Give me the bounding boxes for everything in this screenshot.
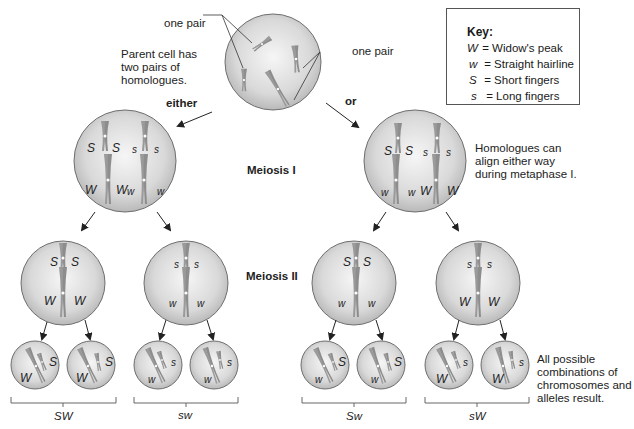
allele-label: w: [127, 186, 134, 198]
allele-label: W: [85, 184, 96, 196]
key-legend: Key: W = Widow's peak w = Straight hairl…: [446, 8, 580, 105]
allele-label: w: [408, 187, 415, 199]
meiosis2-label: Meiosis II: [246, 270, 298, 283]
allele-label: S: [105, 356, 113, 368]
arrow-either: [178, 112, 212, 126]
all-combinations-note: All possible combinations of chromosomes…: [537, 353, 632, 405]
meiosis2-cell-3: [312, 241, 396, 325]
allele-label: s: [194, 259, 199, 271]
parent-description: Parent cell has two pairs of homologues.: [121, 48, 197, 87]
allele-label: s: [423, 147, 428, 159]
allele-label: S: [363, 256, 371, 268]
allele-label: w: [169, 298, 176, 310]
allele-label: S: [384, 145, 392, 157]
allele-label: w: [371, 374, 378, 386]
allele-label: W: [459, 296, 470, 308]
allele-label: s: [171, 357, 176, 369]
pair-label-left: one pair: [164, 17, 206, 30]
gamete-brackets: [11, 397, 529, 407]
allele-label: w: [148, 374, 155, 386]
gamete-group-label: SW: [54, 410, 73, 422]
key-row-W: W = Widow's peak: [467, 42, 563, 54]
gamete-group-label: sw: [178, 409, 192, 421]
allele-label: W: [447, 185, 458, 197]
allele-label: w: [381, 187, 388, 199]
meiosis2-cell-4: [436, 241, 520, 325]
allele-label: s: [487, 259, 492, 271]
allele-label: w: [197, 298, 204, 310]
allele-label: S: [343, 256, 351, 268]
allele-label: S: [338, 356, 346, 368]
allele-label: s: [174, 259, 179, 271]
allele-label: W: [420, 185, 431, 197]
allele-label: S: [49, 356, 57, 368]
allele-label: S: [87, 142, 95, 154]
allele-label: W: [76, 372, 87, 384]
allele-label: s: [132, 144, 137, 156]
allele-label: s: [446, 147, 451, 159]
meiosis1-label: Meiosis I: [247, 164, 296, 177]
allele-label: s: [154, 144, 159, 156]
allele-label: W: [20, 372, 31, 384]
allele-label: W: [74, 295, 85, 307]
allele-label: w: [204, 374, 211, 386]
key-row-S: S = Short fingers: [469, 74, 559, 86]
allele-label: W: [116, 184, 127, 196]
allele-label: s: [227, 357, 232, 369]
allele-label: s: [467, 259, 472, 271]
allele-label: S: [405, 145, 413, 157]
allele-label: w: [315, 374, 322, 386]
meiosis2-cell-2: [144, 241, 228, 325]
allele-label: S: [50, 256, 58, 268]
meiosis2-cell-1: [21, 241, 105, 325]
allele-label: w: [338, 298, 345, 310]
either-label: either: [166, 97, 197, 110]
allele-label: w: [368, 298, 375, 310]
pair-label-right: one pair: [352, 45, 394, 58]
gametes: [11, 341, 529, 389]
allele-label: W: [44, 295, 55, 307]
allele-label: s: [463, 357, 468, 369]
parent-cell: [225, 14, 321, 110]
allele-label: S: [394, 356, 402, 368]
key-row-w: w = Straight hairline: [469, 58, 574, 70]
allele-label: s: [519, 357, 524, 369]
gamete-group-label: sW: [469, 410, 486, 422]
allele-label: w: [157, 186, 164, 198]
homologues-align-note: Homologues can align either way during m…: [475, 142, 577, 181]
allele-label: S: [71, 256, 79, 268]
key-row-s: s = Long fingers: [471, 90, 559, 102]
allele-label: W: [436, 373, 447, 385]
key-title: Key:: [467, 25, 493, 39]
allele-label: S: [112, 142, 120, 154]
allele-label: W: [488, 296, 499, 308]
or-label: or: [345, 95, 357, 108]
gamete-group-label: Sw: [346, 410, 362, 422]
allele-label: W: [492, 373, 503, 385]
